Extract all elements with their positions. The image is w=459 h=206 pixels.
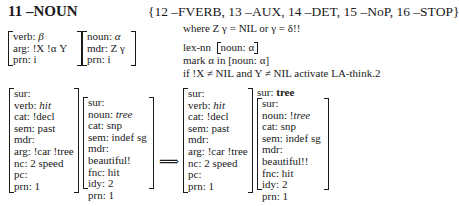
attribute-key: verb: (13, 30, 38, 42)
attribute-key: cat: (188, 110, 207, 122)
lexnn-box: noun: α (217, 42, 259, 53)
attribute-value: beautiful! (88, 154, 131, 166)
attribute-key: prn: (188, 180, 208, 192)
attribute-key: nc: (14, 157, 30, 169)
attribute-key: sur: (262, 97, 279, 109)
attribute-key: noun: ! (262, 109, 293, 121)
attribute-key: mdr: (88, 142, 109, 154)
attribute-key: cat: (88, 119, 107, 131)
mark-operation: mark α in [noun: α] (183, 54, 269, 67)
attribute-key: sur: (188, 87, 205, 99)
attribute-line: prn: 1 (188, 181, 248, 193)
attribute-line: prn: 1 (88, 190, 149, 202)
attribute-key: sem: (188, 122, 212, 134)
pattern-noun-box: noun: αmdr: Z γprn: i (82, 31, 136, 66)
attribute-value: indef sg (286, 132, 321, 144)
attribute-key: nc: (188, 157, 204, 169)
attribute-value: indef sg (112, 131, 147, 143)
attribute-key: arg: (13, 42, 33, 54)
attribute-value: snp (107, 119, 122, 131)
attribute-value: 1 (34, 180, 40, 192)
attribute-key: idy: (262, 178, 282, 190)
attribute-value: tree (116, 108, 133, 120)
transition-arrow: ⟹ (159, 153, 179, 170)
attribute-value: hit (108, 166, 120, 178)
attribute-value: past (38, 122, 56, 134)
attribute-key: noun: (87, 30, 115, 42)
surface-value: tree (276, 86, 294, 98)
where-condition: where Z γ = NIL or γ = δ!! (183, 22, 300, 35)
attribute-key: mdr: (262, 143, 283, 155)
attribute-key: mdr: (87, 42, 111, 54)
attribute-key: cat: (262, 120, 281, 132)
attribute-value: beautiful!! (262, 155, 308, 167)
output-verb-proplet: sur:verb: hitcat: !declsem: pastmdr:arg:… (183, 88, 253, 193)
attribute-key: prn: (14, 180, 34, 192)
attribute-line: prn: i (87, 54, 131, 66)
attribute-key: mdr: (14, 133, 35, 145)
attribute-key: prn: (13, 53, 33, 65)
attribute-value: i (33, 53, 36, 65)
attribute-key: verb: (14, 99, 39, 111)
attribute-value: 2 speed (30, 157, 63, 169)
attribute-key: sem: (88, 131, 112, 143)
attribute-value: β (38, 30, 43, 42)
attribute-key: fnc: (88, 166, 108, 178)
attribute-key: pc: (188, 168, 201, 180)
input-noun-proplet: sur:noun: treecat: snpsem: indef sgmdr: … (83, 97, 154, 189)
pattern-verb-box: verb: βarg: !X !α Yprn: i (8, 31, 82, 66)
attribute-value: !car !tree (208, 145, 248, 157)
attribute-value: Z γ (111, 42, 125, 54)
attribute-value: 2 (108, 177, 114, 189)
attribute-value: !decl (33, 110, 55, 122)
attribute-key: fnc: (262, 167, 282, 179)
attribute-key: verb: (188, 99, 213, 111)
attribute-key: noun: (88, 108, 116, 120)
attribute-value: hit (282, 167, 294, 179)
attribute-line: mdr: beautiful!! (262, 144, 324, 167)
attribute-value: !X !α Y (33, 42, 67, 54)
attribute-value: 2 (282, 178, 288, 190)
activate-condition: if !X ≠ NIL and Y ≠ NIL activate LA-thin… (183, 67, 380, 80)
attribute-value: tree (293, 109, 310, 121)
attribute-line: prn: 1 (262, 191, 324, 203)
attribute-value: !car !tree (34, 145, 74, 157)
attribute-value: 1 (108, 189, 114, 201)
attribute-key: pc: (14, 168, 27, 180)
attribute-value: 1 (282, 190, 288, 202)
attribute-value: past (212, 122, 230, 134)
attribute-key: sur: (88, 96, 105, 108)
attribute-key: arg: (188, 145, 208, 157)
rule-package: {12 –FVERB, 13 –AUX, 14 –DET, 15 –NoP, 1… (148, 4, 459, 20)
attribute-line: prn: 1 (14, 181, 74, 193)
attribute-key: prn: (88, 189, 108, 201)
rule-name: 11 –NOUN (8, 3, 78, 20)
attribute-value: i (107, 53, 110, 65)
attribute-value: !decl (207, 110, 229, 122)
attribute-line: mdr: beautiful! (88, 143, 149, 166)
attribute-key: arg: (14, 145, 34, 157)
attribute-value: snp (281, 120, 296, 132)
attribute-key: sur: (14, 87, 31, 99)
attribute-key: mdr: (188, 133, 209, 145)
attribute-key: sem: (262, 132, 286, 144)
attribute-value: hit (39, 99, 51, 111)
attribute-key: sem: (14, 122, 38, 134)
input-verb-proplet: sur:verb: hitcat: !declsem: pastmdr:arg:… (9, 88, 79, 193)
attribute-key: idy: (88, 177, 108, 189)
attribute-line: prn: i (13, 54, 77, 66)
output-noun-proplet: sur:noun: !treecat: snpsem: indef sgmdr:… (257, 98, 329, 190)
lexnn-operation: lex-nn noun: α (183, 41, 258, 54)
attribute-value: 1 (208, 180, 214, 192)
attribute-key: prn: (87, 53, 107, 65)
lexnn-label: lex-nn (183, 41, 211, 53)
attribute-value: 2 speed (204, 157, 237, 169)
attribute-key: cat: (14, 110, 33, 122)
attribute-value: α (115, 30, 121, 42)
attribute-key: prn: (262, 190, 282, 202)
attribute-value: hit (213, 99, 225, 111)
